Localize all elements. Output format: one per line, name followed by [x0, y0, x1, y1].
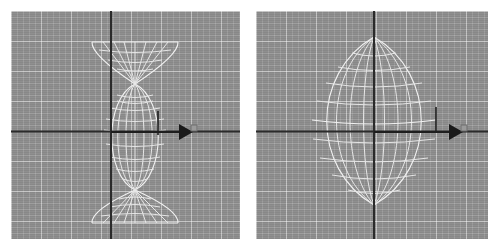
viewport-right[interactable]: [256, 11, 488, 239]
translate-gizmo-right[interactable]: [374, 107, 467, 140]
viewport-left[interactable]: [11, 11, 240, 239]
axis-gizmo-layer-right[interactable]: [256, 11, 488, 239]
gizmo-handle-box-right[interactable]: [461, 125, 467, 131]
axis-gizmo-layer-left[interactable]: [11, 11, 240, 239]
screenshot-root: [0, 0, 499, 244]
gizmo-handle-box-left[interactable]: [191, 125, 197, 131]
translate-gizmo-left[interactable]: [111, 111, 197, 140]
